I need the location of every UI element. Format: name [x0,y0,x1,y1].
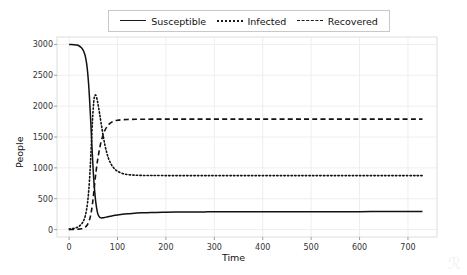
chart-figure: Susceptible Infected Recovered People Ti… [0,0,467,275]
legend-swatch-susceptible-icon [120,17,146,25]
legend-swatch-infected-icon [217,17,243,25]
y-tick-label: 3000 [21,40,53,49]
x-tick-label: 500 [303,243,318,252]
legend-item-recovered: Recovered [297,16,378,27]
legend-label-susceptible: Susceptible [151,16,206,27]
chart-legend: Susceptible Infected Recovered [108,10,390,32]
watermark: ℛ [448,254,461,273]
x-tick-label: 300 [207,243,222,252]
y-tick-label: 0 [21,225,53,234]
y-tick-label: 1500 [21,133,53,142]
y-tick-label: 2000 [21,102,53,111]
x-tick-label: 600 [352,243,367,252]
x-axis-label: Time [0,252,467,263]
x-tick-label: 400 [255,243,270,252]
legend-item-infected: Infected [217,16,287,27]
legend-swatch-recovered-icon [297,17,323,25]
y-tick-label: 500 [21,194,53,203]
x-tick-label: 700 [400,243,415,252]
legend-label-infected: Infected [248,16,287,27]
x-tick-label: 200 [158,243,173,252]
legend-item-susceptible: Susceptible [120,16,206,27]
x-tick-label: 0 [67,243,72,252]
y-tick-label: 2500 [21,71,53,80]
legend-label-recovered: Recovered [328,16,378,27]
x-tick-label: 100 [110,243,125,252]
y-tick-label: 1000 [21,163,53,172]
chart-plot-area [0,0,467,275]
